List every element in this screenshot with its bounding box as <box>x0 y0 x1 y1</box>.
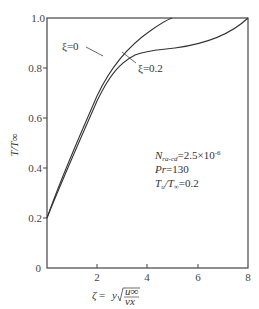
leader-line-xi-0.2 <box>122 52 136 63</box>
series-label-xi-0.2: ξ=0.2 <box>138 62 163 75</box>
y-tick-0.2: 0.2 <box>28 212 42 224</box>
line-chart: 0 0.2 0.4 0.6 0.8 1.0 2 4 6 8 T/T∞ ζ = y… <box>0 0 259 309</box>
x-label-den: νx <box>125 295 135 307</box>
y-tick-labels: 0 0.2 0.4 0.6 0.8 1.0 <box>28 12 45 274</box>
y-tick-0.4: 0.4 <box>28 162 42 174</box>
series-label-xi-0: ξ=0 <box>62 40 79 53</box>
x-label-y: y <box>111 289 117 301</box>
x-axis-label: ζ = y u∞ νx <box>92 285 140 307</box>
y-tick-0.8: 0.8 <box>28 62 42 74</box>
y-axis-label: T/T∞ <box>8 133 20 156</box>
x-tick-labels: 2 4 6 8 <box>94 271 251 283</box>
param-n: Nra-cd=2.5×10-6 <box>154 149 221 163</box>
y-tick-1.0: 1.0 <box>31 12 45 24</box>
x-label-zeta: ζ <box>92 289 98 302</box>
x-tick-6: 6 <box>195 271 201 283</box>
x-label-eq: = <box>99 289 105 301</box>
param-pr: Pr=130 <box>154 163 189 175</box>
leader-line-xi-0 <box>86 47 103 56</box>
x-tick-4: 4 <box>144 271 150 283</box>
x-axis <box>97 264 198 268</box>
x-tick-8: 8 <box>245 271 251 283</box>
x-tick-2: 2 <box>94 271 100 283</box>
parameter-legend: Nra-cd=2.5×10-6 Pr=130 Tu/T∞=0.2 <box>154 149 221 191</box>
y-tick-0.6: 0.6 <box>28 112 42 124</box>
y-tick-0: 0 <box>36 262 42 274</box>
param-t: Tu/T∞=0.2 <box>155 177 199 191</box>
